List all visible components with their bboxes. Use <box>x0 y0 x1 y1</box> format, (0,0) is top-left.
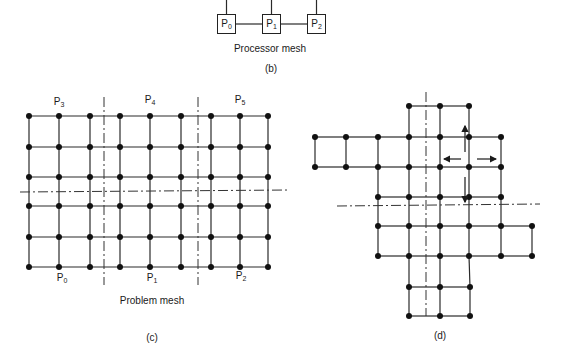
mesh-node <box>147 203 153 209</box>
mesh-node <box>147 174 153 180</box>
mesh-node <box>26 234 32 240</box>
mesh-node <box>87 113 93 119</box>
processor-label: P0 <box>221 18 232 30</box>
mesh-node <box>437 284 443 290</box>
mesh-node <box>237 144 243 150</box>
diagram-canvas <box>0 0 566 361</box>
mesh-node <box>466 223 472 229</box>
panel-d-label: (d) <box>434 331 446 341</box>
mesh-node <box>26 144 32 150</box>
mesh-node <box>406 134 412 140</box>
partition-label-p4: P4 <box>145 95 156 108</box>
mesh-node <box>208 203 214 209</box>
panel-b-label: (b) <box>265 64 277 74</box>
mesh-node <box>467 313 473 319</box>
distorted-mesh-grid <box>312 103 535 319</box>
mesh-node <box>437 313 443 319</box>
mesh-node <box>208 144 214 150</box>
partition-label-p3: P3 <box>54 97 65 110</box>
mesh-node <box>237 234 243 240</box>
mesh-node <box>178 264 184 270</box>
mesh-node <box>208 264 214 270</box>
mesh-node <box>437 103 443 109</box>
mesh-node <box>343 134 349 140</box>
mesh-node <box>265 174 271 180</box>
mesh-node <box>208 234 214 240</box>
mesh-node <box>147 234 153 240</box>
mesh-node <box>406 103 412 109</box>
mesh-node <box>466 194 472 200</box>
mesh-node <box>117 264 123 270</box>
mesh-node <box>498 253 504 259</box>
mesh-node <box>178 234 184 240</box>
mesh-node <box>265 113 271 119</box>
mesh-node <box>178 203 184 209</box>
mesh-node <box>312 134 318 140</box>
partition-label-p1: P1 <box>147 273 158 286</box>
partition-label-p5: P5 <box>235 95 246 108</box>
mesh-node <box>265 234 271 240</box>
mesh-node <box>56 264 62 270</box>
mesh-node <box>406 253 412 259</box>
mesh-node <box>437 194 443 200</box>
mesh-node <box>178 174 184 180</box>
mesh-node <box>178 144 184 150</box>
mesh-node <box>56 234 62 240</box>
mesh-node <box>343 164 349 170</box>
mesh-node <box>56 113 62 119</box>
mesh-node <box>498 134 504 140</box>
mesh-node <box>208 174 214 180</box>
mesh-node <box>26 113 32 119</box>
mesh-node <box>87 234 93 240</box>
mesh-node <box>498 223 504 229</box>
mesh-node <box>87 144 93 150</box>
partition-label-p2: P2 <box>236 271 247 284</box>
mesh-node <box>237 174 243 180</box>
mesh-node <box>208 113 214 119</box>
mesh-node <box>312 164 318 170</box>
mesh-node <box>375 164 381 170</box>
mesh-node <box>237 113 243 119</box>
mesh-node <box>26 174 32 180</box>
mesh-node <box>437 164 443 170</box>
partition-label-p0: P0 <box>57 273 68 286</box>
mesh-node <box>466 164 472 170</box>
mesh-node <box>466 253 472 259</box>
mesh-node <box>437 134 443 140</box>
mesh-node <box>529 253 535 259</box>
mesh-node <box>375 194 381 200</box>
mesh-node <box>406 223 412 229</box>
processor-box-p1: P1 <box>262 14 281 34</box>
mesh-node <box>265 264 271 270</box>
mesh-node <box>375 253 381 259</box>
mesh-node <box>56 203 62 209</box>
mesh-node <box>26 203 32 209</box>
mesh-node <box>498 194 504 200</box>
mesh-node <box>466 103 472 109</box>
mesh-node <box>56 144 62 150</box>
mesh-node <box>406 313 412 319</box>
mesh-node <box>265 144 271 150</box>
mesh-node <box>466 134 472 140</box>
mesh-node <box>437 223 443 229</box>
mesh-node <box>467 284 473 290</box>
mesh-node <box>178 113 184 119</box>
mesh-node <box>87 203 93 209</box>
mesh-node <box>147 264 153 270</box>
mesh-node <box>87 264 93 270</box>
processor-box-p0: P0 <box>217 14 236 34</box>
mesh-node <box>117 203 123 209</box>
mesh-node <box>437 253 443 259</box>
processor-label: P1 <box>266 18 277 30</box>
distorted-mesh-partition-lines <box>337 92 540 316</box>
problem-mesh-title: Problem mesh <box>120 296 184 306</box>
mesh-node <box>117 113 123 119</box>
mesh-node <box>406 164 412 170</box>
mesh-node <box>375 223 381 229</box>
problem-mesh-partition-lines <box>20 97 290 285</box>
panel-c-label: (c) <box>146 333 158 343</box>
mesh-node <box>498 164 504 170</box>
mesh-node <box>147 144 153 150</box>
mesh-node <box>406 284 412 290</box>
processor-label: P2 <box>311 18 322 30</box>
